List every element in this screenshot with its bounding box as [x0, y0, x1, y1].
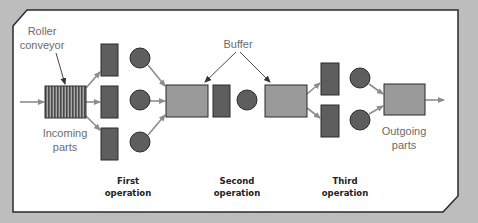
machine-2 [213, 85, 230, 117]
operator-3a [350, 68, 370, 88]
outgoing-parts-label-2: parts [392, 139, 417, 151]
operator-1c [130, 132, 150, 152]
production-line-diagram: Roller conveyor Buffer Incoming parts Ou… [0, 0, 478, 223]
operator-3b [350, 110, 370, 130]
roller-conveyor-label: Roller [28, 25, 57, 37]
roller-conveyor [45, 86, 86, 118]
second-operation-label-2: operation [214, 188, 260, 198]
operator-1a [130, 48, 150, 68]
first-operation-label-2: operation [105, 188, 151, 198]
incoming-parts-label: Incoming [43, 127, 88, 139]
operator-1b [130, 90, 150, 110]
machine-3a [321, 63, 339, 95]
third-operation-label: Third [332, 176, 357, 186]
outgoing-buffer [384, 84, 425, 115]
operator-2 [237, 90, 257, 110]
machine-1a [101, 44, 118, 76]
roller-conveyor-label-2: conveyor [20, 39, 65, 51]
incoming-parts-label-2: parts [53, 141, 78, 153]
machine-3b [321, 105, 339, 137]
buffer-2 [265, 85, 307, 117]
buffer-label: Buffer [223, 38, 252, 50]
buffer-1 [166, 85, 208, 117]
outgoing-parts-label: Outgoing [382, 125, 427, 137]
first-operation-label: First [117, 176, 139, 186]
machine-1b [101, 86, 118, 118]
third-operation-label-2: operation [322, 188, 368, 198]
machine-1c [101, 128, 118, 160]
second-operation-label: Second [220, 176, 255, 186]
